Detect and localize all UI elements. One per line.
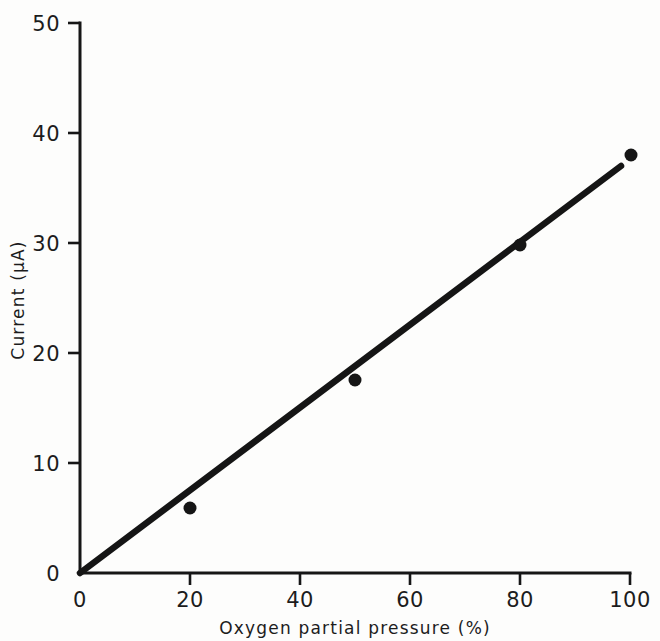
x-tick-label-60: 60 xyxy=(396,588,424,612)
series-fit-line xyxy=(80,166,621,573)
y-tick-label-20: 20 xyxy=(32,342,60,366)
data-point-marker xyxy=(514,239,527,252)
data-point-marker xyxy=(184,502,197,515)
y-tick-label-10: 10 xyxy=(32,452,60,476)
chart-figure: 50 40 30 20 10 0 0 20 40 60 80 100 Curre… xyxy=(0,0,660,641)
x-tick-label-100: 100 xyxy=(609,588,651,612)
data-point-marker xyxy=(349,374,362,387)
y-tick-label-30: 30 xyxy=(32,232,60,256)
y-tick-label-50: 50 xyxy=(32,12,60,36)
x-tick-label-0: 0 xyxy=(73,588,87,612)
x-tick-label-80: 80 xyxy=(506,588,534,612)
x-tick-label-20: 20 xyxy=(176,588,204,612)
y-tick-label-40: 40 xyxy=(32,122,60,146)
chart-canvas: 50 40 30 20 10 0 0 20 40 60 80 100 Curre… xyxy=(0,0,660,641)
x-axis-title: Oxygen partial pressure (%) xyxy=(219,618,491,638)
data-point-marker xyxy=(625,149,638,162)
y-tick-label-0: 0 xyxy=(46,562,60,586)
y-axis-title: Current (µA) xyxy=(8,240,28,359)
x-tick-label-40: 40 xyxy=(286,588,314,612)
